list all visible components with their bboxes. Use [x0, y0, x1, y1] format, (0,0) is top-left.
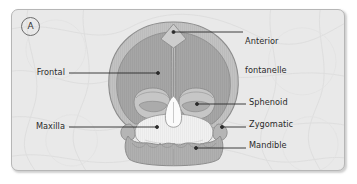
label-anterior-fontanelle-line1: Anterior — [245, 37, 287, 47]
label-zygomatic: Zygomatic — [249, 120, 293, 130]
label-sphenoid: Sphenoid — [249, 98, 288, 108]
figure-root: A — [0, 0, 357, 184]
label-frontal: Frontal — [18, 68, 65, 78]
label-anterior-fontanelle: Anterior fontanelle — [245, 18, 287, 95]
label-maxilla: Maxilla — [18, 122, 65, 132]
neonatal-skull-illustration — [12, 10, 345, 171]
label-mandible: Mandible — [249, 141, 287, 151]
figure-panel: A — [11, 9, 345, 171]
label-anterior-fontanelle-line2: fontanelle — [245, 66, 287, 76]
